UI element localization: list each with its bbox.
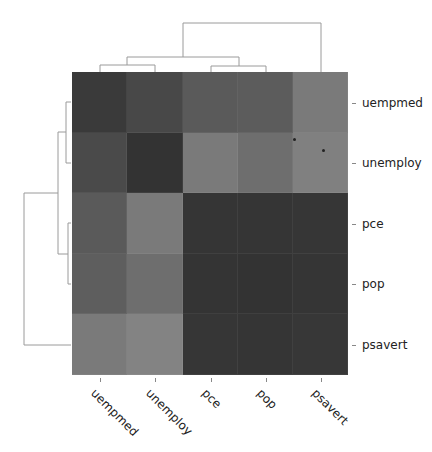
heatmap-cell <box>72 314 127 375</box>
marker-dot <box>293 138 296 141</box>
heatmap-cell <box>72 72 127 133</box>
tick-mark <box>352 345 356 346</box>
column-dendrogram <box>100 23 321 72</box>
heatmap-cell <box>238 254 293 314</box>
heatmap-cell <box>238 72 293 133</box>
heatmap-grid <box>72 72 348 375</box>
heatmap-cell <box>127 254 183 314</box>
row-label-text: pce <box>362 217 384 231</box>
tick-mark <box>266 378 267 382</box>
row-dendrogram <box>24 102 71 345</box>
heatmap-cell <box>72 133 127 193</box>
tick-mark <box>352 163 356 164</box>
heatmap-cell <box>183 193 238 254</box>
row-label: pop <box>352 277 385 291</box>
heatmap-cell <box>293 193 348 254</box>
heatmap-cell <box>238 133 293 193</box>
heatmap-cell <box>127 314 183 375</box>
heatmap-cell <box>72 193 127 254</box>
row-label-text: pop <box>362 277 385 291</box>
heatmap-cell <box>293 314 348 375</box>
heatmap-cell <box>183 314 238 375</box>
row-label: psavert <box>352 338 407 352</box>
tick-mark <box>352 284 356 285</box>
heatmap-cell <box>183 133 238 193</box>
heatmap-cell <box>238 314 293 375</box>
heatmap-cell <box>183 254 238 314</box>
heatmap-cell <box>183 72 238 133</box>
row-label-text: psavert <box>362 338 407 352</box>
tick-mark <box>352 103 356 104</box>
marker-dot <box>322 149 325 152</box>
row-label-text: uempmed <box>362 96 423 110</box>
heatmap-cell <box>238 193 293 254</box>
row-label: unemploy <box>352 156 422 170</box>
row-label-text: unemploy <box>362 156 422 170</box>
heatmap-cell <box>72 254 127 314</box>
clustermap: uempmedunemploypcepoppsavert uempmedunem… <box>0 0 432 452</box>
heatmap-cell <box>293 72 348 133</box>
tick-mark <box>321 378 322 382</box>
tick-mark <box>352 224 356 225</box>
row-label: pce <box>352 217 384 231</box>
tick-mark <box>155 378 156 382</box>
heatmap-cell <box>293 133 348 193</box>
tick-mark <box>211 378 212 382</box>
heatmap-cell <box>127 193 183 254</box>
heatmap-cell <box>127 133 183 193</box>
heatmap-cell <box>293 254 348 314</box>
tick-mark <box>100 378 101 382</box>
row-label: uempmed <box>352 96 423 110</box>
heatmap-cell <box>127 72 183 133</box>
